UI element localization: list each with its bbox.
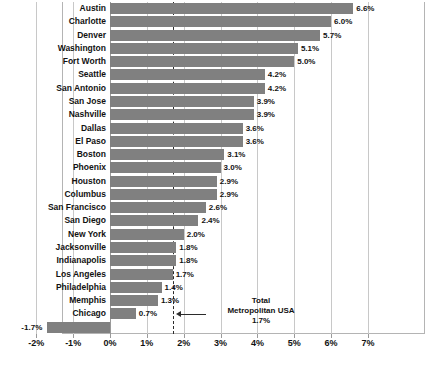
bar-row: San Diego2.4% (0, 214, 439, 227)
category-label: San Francisco (48, 201, 106, 214)
bar (110, 30, 320, 41)
category-label: Houston (72, 175, 106, 188)
category-label: San Diego (64, 214, 106, 227)
bar (110, 96, 254, 107)
bar-value-label: 2.9% (220, 188, 238, 201)
category-label: Fort Worth (63, 55, 106, 68)
bar-row: Phoenix3.0% (0, 161, 439, 174)
bar-row: San Antonio4.2% (0, 82, 439, 95)
bar (110, 136, 243, 147)
bar-row: San Jose3.9% (0, 95, 439, 108)
bar (110, 255, 176, 266)
annotation-arrow-icon (176, 311, 206, 318)
bar (110, 242, 176, 253)
category-label: Nashville (69, 108, 106, 121)
bar-value-label: 3.9% (257, 108, 275, 121)
bar-value-label: 6.0% (334, 15, 352, 28)
category-label: Austin (80, 2, 106, 15)
bar-value-label: 1.8% (179, 254, 197, 267)
bar (110, 202, 206, 213)
bar-value-label: 2.9% (220, 175, 238, 188)
bar (110, 109, 254, 120)
category-label: San Jose (69, 95, 106, 108)
bar-row: San Francisco2.6% (0, 201, 439, 214)
bar-row: Houston2.9% (0, 175, 439, 188)
bar (47, 322, 110, 333)
category-label: San Antonio (56, 82, 106, 95)
category-label: Chicago (72, 307, 106, 320)
bar-value-label: 5.0% (297, 55, 315, 68)
bar-value-label: 1.3% (161, 294, 179, 307)
bar (110, 3, 353, 14)
bar-value-label: 5.1% (301, 42, 319, 55)
bar-row: Seattle4.2% (0, 68, 439, 81)
bar-value-label: 2.0% (187, 228, 205, 241)
bar (110, 16, 331, 27)
x-axis-tick-label: 4% (237, 338, 277, 348)
category-label: Jacksonville (55, 241, 106, 254)
category-label: Indianapolis (56, 254, 106, 267)
bar-value-label: 3.9% (257, 95, 275, 108)
bar (110, 162, 221, 173)
bar (110, 83, 265, 94)
bar (110, 295, 158, 306)
bar (110, 282, 162, 293)
x-axis-tick-label: 7% (348, 338, 388, 348)
bar-row: Charlotte6.0% (0, 15, 439, 28)
bar (110, 123, 243, 134)
bar-value-label: 3.6% (246, 135, 264, 148)
category-label: Los Angeles (56, 268, 106, 281)
category-label: Washington (58, 42, 106, 55)
bar-rows: Austin6.6%Charlotte6.0%Denver5.7%Washing… (0, 2, 439, 334)
bar (110, 149, 224, 160)
bar (110, 176, 217, 187)
bar-value-label: 5.7% (323, 29, 341, 42)
annotation-line: 1.7% (207, 316, 315, 326)
bar (110, 269, 173, 280)
category-label: Boston (77, 148, 106, 161)
bar-value-label: 2.4% (201, 214, 219, 227)
x-axis-tick-label: 6% (311, 338, 351, 348)
category-label: El Paso (75, 135, 106, 148)
bar-row: Jacksonville1.8% (0, 241, 439, 254)
bar-value-label: 1.4% (165, 281, 183, 294)
category-label: Memphis (69, 294, 106, 307)
bar-row: Los Angeles1.7% (0, 268, 439, 281)
bar-chart: Austin6.6%Charlotte6.0%Denver5.7%Washing… (0, 0, 439, 365)
bar (110, 69, 265, 80)
bar-row: Indianapolis1.8% (0, 254, 439, 267)
annotation-line: Metropolitan USA (207, 306, 315, 316)
category-label: Charlotte (69, 15, 106, 28)
category-label: Seattle (78, 68, 106, 81)
annotation-line: Total (207, 296, 315, 306)
bar (110, 43, 298, 54)
bar-value-label: 1.8% (179, 241, 197, 254)
bar-row: Boston3.1% (0, 148, 439, 161)
bar (110, 229, 184, 240)
bar-row: El Paso3.6% (0, 135, 439, 148)
category-label: Denver (77, 29, 106, 42)
category-label: Dallas (81, 122, 106, 135)
bar-row: Nashville3.9% (0, 108, 439, 121)
bar (110, 308, 136, 319)
bar-row: Denver5.7% (0, 29, 439, 42)
bar-value-label: 3.6% (246, 122, 264, 135)
bar-row: Philadelphia1.4% (0, 281, 439, 294)
bar-row: Austin6.6% (0, 2, 439, 15)
bar-row: Dallas3.6% (0, 122, 439, 135)
bar-row: Fort Worth5.0% (0, 55, 439, 68)
bar-row: Washington5.1% (0, 42, 439, 55)
bar-value-label: 6.6% (356, 2, 374, 15)
x-axis: -2%-1%0%1%2%3%4%5%6%7% (0, 338, 439, 358)
bar-value-label: -1.7% (21, 321, 42, 334)
bar-row: Columbus2.9% (0, 188, 439, 201)
x-axis-tick-label: 0% (90, 338, 130, 348)
category-label: Columbus (64, 188, 106, 201)
bar (110, 189, 217, 200)
bar (110, 56, 294, 67)
bar-row: New York2.0% (0, 228, 439, 241)
bar-value-label: 2.6% (209, 201, 227, 214)
bar-value-label: 4.2% (268, 82, 286, 95)
bar-value-label: 0.7% (139, 307, 157, 320)
x-axis-tick-label: -2% (16, 338, 56, 348)
